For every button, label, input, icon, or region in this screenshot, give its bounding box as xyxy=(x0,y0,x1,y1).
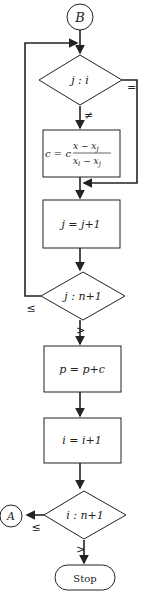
svg-text:c = c: c = c xyxy=(45,148,71,159)
svg-text:j : n+1: j : n+1 xyxy=(61,290,101,303)
svg-text:j = j+1: j = j+1 xyxy=(58,218,100,231)
connector-b: B xyxy=(67,4,93,30)
svg-text:≤: ≤ xyxy=(26,302,35,315)
process-p-update: p = p+c xyxy=(44,346,121,392)
flowchart: B j : i = ≠ c = c x − xj xi − xj j = j+1 xyxy=(0,0,143,602)
process-c-update: c = c x − xj xi − xj xyxy=(43,130,120,177)
decision-j-i: j : i = ≠ xyxy=(39,55,136,122)
svg-text:A: A xyxy=(6,510,15,523)
svg-text:p = p+c: p = p+c xyxy=(59,363,105,376)
svg-text:i = i+1: i = i+1 xyxy=(62,434,101,447)
svg-text:≤: ≤ xyxy=(31,521,40,534)
svg-text:≠: ≠ xyxy=(84,109,93,122)
svg-text:=: = xyxy=(127,81,136,94)
connector-a: A xyxy=(0,505,22,527)
svg-text:>: > xyxy=(76,543,85,556)
terminal-stop: Stop xyxy=(55,565,115,590)
svg-text:i : n+1: i : n+1 xyxy=(66,509,104,522)
process-i-increment: i = i+1 xyxy=(44,418,121,463)
process-j-increment: j = j+1 xyxy=(43,200,120,248)
svg-text:j : i: j : i xyxy=(68,74,89,87)
svg-text:>: > xyxy=(76,324,85,337)
svg-text:Stop: Stop xyxy=(73,573,96,584)
decision-j-n1: j : n+1 ≤ > xyxy=(26,272,125,337)
decision-i-n1: i : n+1 ≤ > xyxy=(31,491,126,556)
svg-text:B: B xyxy=(74,10,85,25)
